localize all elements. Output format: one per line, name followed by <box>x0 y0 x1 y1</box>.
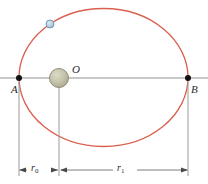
point-a-marker <box>16 75 22 81</box>
label-r1-subscript: 1 <box>121 167 125 175</box>
label-point-b: B <box>191 84 198 95</box>
label-r0-subscript: 0 <box>35 167 39 175</box>
diagram-canvas <box>0 0 208 184</box>
orbit-diagram: A B O r0 r1 <box>0 0 208 184</box>
label-center-o: O <box>72 64 80 75</box>
arrowhead-r1-right <box>181 167 188 172</box>
point-b-marker <box>185 75 191 81</box>
label-point-a: A <box>11 84 18 95</box>
label-dimension-r0: r0 <box>31 163 38 173</box>
arrowhead-r0-right <box>51 167 58 172</box>
label-dimension-r1: r1 <box>117 163 124 173</box>
arrowhead-r0-left <box>19 167 26 172</box>
central-body-sphere <box>50 69 69 88</box>
arrowhead-r1-left <box>60 167 67 172</box>
satellite-body <box>46 20 54 28</box>
